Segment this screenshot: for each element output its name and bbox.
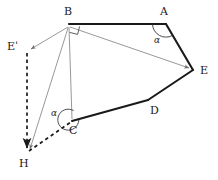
figure-canvas <box>0 0 218 180</box>
angle-label-alpha-c: α <box>51 109 57 118</box>
thick-figure-outline <box>69 24 193 121</box>
segment-b-c <box>69 27 72 119</box>
edge-e-d <box>148 70 193 100</box>
vertex-label-e-prime: Eˈ <box>7 41 18 52</box>
vertex-label-b: B <box>64 6 72 17</box>
edge-d-c <box>72 100 148 121</box>
angle-label-alpha-a: α <box>154 36 160 45</box>
vertex-label-d: D <box>150 105 159 116</box>
vertex-label-a: A <box>160 6 168 17</box>
geometry-diagram: B A E D C H Eˈ α α <box>0 0 218 180</box>
vertex-label-c: C <box>69 125 77 136</box>
vertex-label-e: E <box>200 65 208 76</box>
segment-h-c <box>29 122 71 151</box>
edge-a-e <box>166 24 193 70</box>
vertex-label-h: H <box>19 158 29 169</box>
